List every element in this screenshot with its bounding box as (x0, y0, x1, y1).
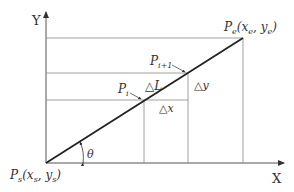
theta-arc (80, 142, 83, 163)
pi-label: Pi (117, 82, 129, 98)
theta-label: θ (87, 148, 94, 161)
x-axis-label: X (272, 171, 282, 186)
delta-x-label: △x (159, 102, 174, 115)
pi1-leader (172, 65, 185, 72)
start-point-label: Ps(xs, ys) (9, 168, 61, 184)
interpolated-line (46, 38, 243, 163)
end-point-label: Pe(xe, ye) (223, 20, 277, 36)
pi1-label: Pi+1 (149, 54, 172, 70)
delta-l-label: △L (145, 79, 162, 93)
delta-y-label: △y (194, 79, 209, 92)
y-axis-label: Y (31, 13, 41, 28)
dda-diagram: Y X Pe(xe, ye) Ps(xs, ys) Pi Pi+1 △L △x … (0, 0, 294, 192)
pi-leader (130, 93, 141, 99)
